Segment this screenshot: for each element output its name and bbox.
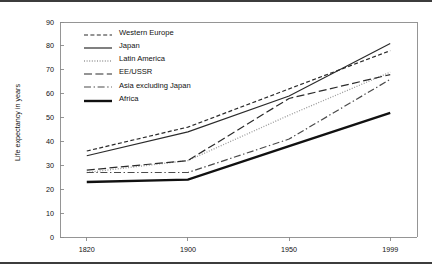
chart-figure: Life expectancy in years 010203040506070… <box>0 0 432 270</box>
x-tick-label: 1999 <box>370 245 410 254</box>
y-tick-label: 40 <box>30 137 54 146</box>
y-tick-label: 10 <box>30 209 54 218</box>
legend-label: Latin America <box>119 55 165 63</box>
legend-label: EE/USSR <box>119 68 152 76</box>
legend-item: EE/USSR <box>84 66 259 79</box>
legend-line-swatch <box>84 40 112 52</box>
y-tick-label: 0 <box>30 233 54 242</box>
legend-label: Asia excluding Japan <box>119 82 191 90</box>
legend-line-swatch <box>84 66 112 78</box>
y-tick-label: 50 <box>30 113 54 122</box>
y-tick-label: 90 <box>30 18 54 27</box>
y-tick-label: 70 <box>30 65 54 74</box>
legend-item: Latin America <box>84 52 259 65</box>
series-line <box>87 113 390 182</box>
legend-line-swatch <box>84 79 112 91</box>
y-tick-label: 60 <box>30 89 54 98</box>
legend-label: Western Europe <box>119 29 174 37</box>
y-tick-label: 30 <box>30 161 54 170</box>
x-tick-label: 1820 <box>67 245 107 254</box>
legend-item: Africa <box>84 92 259 105</box>
legend-item: Western Europe <box>84 26 259 39</box>
legend-line-swatch <box>84 53 112 65</box>
legend-line-swatch <box>84 27 112 39</box>
legend-label: Japan <box>119 42 140 50</box>
legend-item: Japan <box>84 39 259 52</box>
chart-legend: Western EuropeJapanLatin AmericaEE/USSRA… <box>84 26 259 105</box>
x-tick-label: 1950 <box>269 245 309 254</box>
x-tick-label: 1900 <box>168 245 208 254</box>
y-tick-label: 20 <box>30 185 54 194</box>
y-tick-label: 80 <box>30 41 54 50</box>
legend-line-swatch <box>84 93 112 105</box>
legend-item: Asia excluding Japan <box>84 79 259 92</box>
legend-label: Africa <box>119 95 138 103</box>
